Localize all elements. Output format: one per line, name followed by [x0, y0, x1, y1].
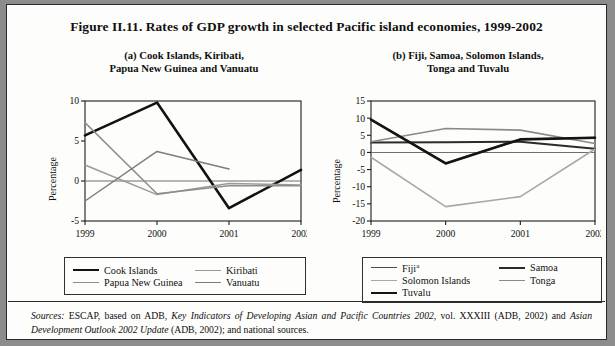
footnote-marker: a [416, 262, 419, 270]
panel-a-title-line1: (a) Cook Islands, Kiribati, [59, 49, 309, 62]
svg-text:5: 5 [360, 130, 365, 141]
legend-item-label: Tonga [530, 275, 555, 286]
svg-text:15: 15 [355, 95, 365, 106]
legend-item: Kiribati [195, 265, 305, 276]
chart-b-legend: FijiaSamoaSolomon IslandsTongaTuvalu [362, 257, 602, 303]
legend-item-label: Kiribati [226, 265, 258, 276]
source-note: Sources: ESCAP, based on ADB, Key Indica… [31, 309, 592, 336]
source-text-1: ESCAP, based on ADB, [65, 310, 172, 321]
chart-b-y-axis-label: Percentage [331, 159, 342, 203]
legend-item: Fijia [371, 262, 499, 274]
legend-item: Cook Islands [73, 265, 195, 276]
chart-b-plot: 151050-5-10-15-201999200020012002 [329, 93, 601, 243]
figure-page: Figure II.11. Rates of GDP growth in sel… [6, 4, 607, 340]
legend-swatch-line-icon [371, 292, 397, 294]
legend-swatch-line-icon [499, 267, 525, 269]
svg-text:-10: -10 [352, 181, 365, 192]
source-label: Sources: [31, 310, 65, 321]
legend-item: Tuvalu [371, 287, 499, 298]
panel-b-title-line2: Tonga and Tuvalu [337, 62, 599, 75]
figure-area: Figure II.11. Rates of GDP growth in sel… [7, 5, 606, 300]
legend-swatch-line-icon [499, 280, 525, 281]
svg-text:-15: -15 [352, 198, 365, 209]
svg-text:10: 10 [69, 95, 79, 106]
legend-item: Solomon Islands [371, 275, 499, 286]
legend-item: Papua New Guinea [73, 277, 195, 288]
legend-swatch-line-icon [371, 267, 397, 268]
legend-item-label: Tuvalu [402, 287, 431, 298]
svg-text:10: 10 [355, 113, 365, 124]
source-italic-1: Key Indicators of Developing Asian and P… [171, 310, 433, 321]
svg-text:2000: 2000 [147, 228, 166, 239]
legend-swatch-line-icon [73, 282, 99, 283]
svg-text:-5: -5 [71, 215, 79, 226]
chart-a-legend: Cook IslandsKiribatiPapua New GuineaVanu… [64, 257, 306, 295]
legend-item-label: Samoa [530, 262, 558, 273]
legend-item: Samoa [499, 262, 599, 274]
legend-item: Tonga [499, 275, 599, 286]
source-text-3: (ADB, 2002); and national sources. [168, 324, 308, 335]
svg-text:2000: 2000 [436, 228, 455, 239]
source-text-2: , vol. XXXIII (ADB, 2002) and [434, 310, 570, 321]
legend-item-label: Fijia [402, 262, 419, 274]
svg-text:1999: 1999 [361, 228, 380, 239]
svg-text:5: 5 [74, 135, 79, 146]
legend-swatch-line-icon [73, 269, 99, 271]
legend-item: Vanuatu [195, 277, 305, 288]
chart-a-plot: 1050-51999200020012002 [45, 93, 307, 243]
legend-item-label: Solomon Islands [402, 275, 470, 286]
svg-text:2002: 2002 [585, 228, 601, 239]
legend-swatch-line-icon [195, 270, 221, 271]
svg-text:0: 0 [360, 147, 365, 158]
panel-b-title-line1: (b) Fiji, Samoa, Solomon Islands, [337, 49, 599, 62]
svg-text:2001: 2001 [511, 228, 530, 239]
legend-item-label: Cook Islands [104, 265, 157, 276]
chart-panel-b: Percentage 151050-5-10-15-20199920002001… [329, 93, 601, 243]
svg-text:2002: 2002 [291, 228, 307, 239]
svg-text:2001: 2001 [219, 228, 238, 239]
panel-b-title: (b) Fiji, Samoa, Solomon Islands, Tonga … [337, 49, 599, 75]
panel-a-title: (a) Cook Islands, Kiribati, Papua New Gu… [59, 49, 309, 75]
legend-item-label: Papua New Guinea [104, 277, 183, 288]
svg-text:-5: -5 [357, 164, 365, 175]
figure-title: Figure II.11. Rates of GDP growth in sel… [7, 19, 606, 35]
svg-text:0: 0 [74, 175, 79, 186]
chart-panel-a: Percentage 1050-51999200020012002 [45, 93, 307, 243]
svg-text:-20: -20 [352, 215, 365, 226]
svg-text:1999: 1999 [75, 228, 94, 239]
legend-swatch-line-icon [371, 280, 397, 281]
legend-item-label: Vanuatu [226, 277, 259, 288]
chart-a-y-axis-label: Percentage [47, 157, 58, 201]
panel-a-title-line2: Papua New Guinea and Vanuatu [59, 62, 309, 75]
section-divider [8, 301, 605, 302]
legend-swatch-line-icon [195, 282, 221, 283]
